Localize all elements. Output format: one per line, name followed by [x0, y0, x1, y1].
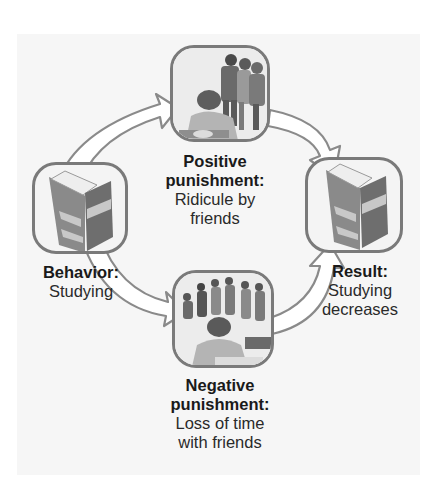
student-ridiculed-by-friends-illustration [173, 48, 270, 142]
behavior-title: Behavior: [26, 263, 136, 282]
negative-title-line-1: Negative [145, 376, 295, 395]
result-node [305, 157, 403, 253]
student-studying-while-friends-socialize-illustration [175, 273, 274, 368]
book-icon [35, 165, 128, 254]
result-text-line-2: decreases [305, 300, 415, 319]
negative-punishment-node [172, 270, 274, 368]
positive-text-line-2: friends [140, 209, 290, 228]
positive-text-line-1: Ridicule by [140, 190, 290, 209]
punishment-diagram: Behavior: Studying Positive punishment: … [0, 0, 436, 491]
book-icon [308, 160, 403, 253]
result-title: Result: [305, 262, 415, 281]
behavior-label: Behavior: Studying [26, 263, 136, 301]
positive-title-line-1: Positive [140, 152, 290, 171]
negative-title-line-2: punishment: [145, 395, 295, 414]
behavior-text: Studying [26, 282, 136, 301]
positive-punishment-label: Positive punishment: Ridicule by friends [140, 152, 290, 228]
behavior-node [32, 162, 128, 254]
positive-punishment-node [170, 45, 270, 142]
result-text-line-1: Studying [305, 281, 415, 300]
negative-text-line-2: with friends [145, 433, 295, 452]
negative-text-line-1: Loss of time [145, 414, 295, 433]
positive-title-line-2: punishment: [140, 171, 290, 190]
negative-punishment-label: Negative punishment: Loss of time with f… [145, 376, 295, 452]
result-label: Result: Studying decreases [305, 262, 415, 319]
